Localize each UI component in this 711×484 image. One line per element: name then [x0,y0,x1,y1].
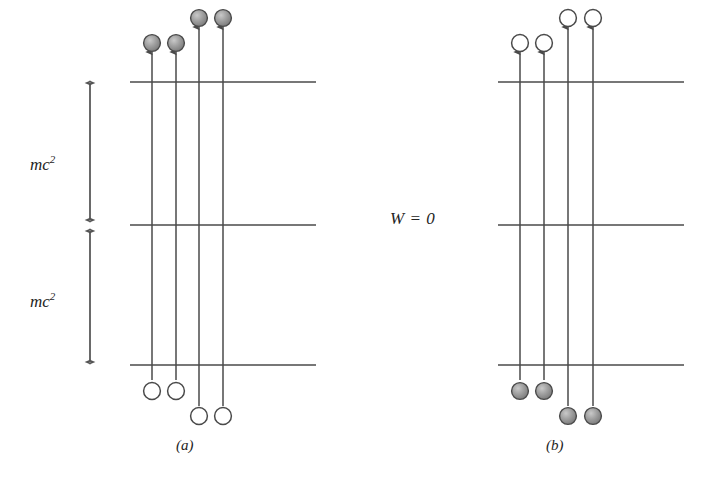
figure-root: mc2 mc2 W = 0 (a) (b) [0,0,711,484]
panel-b-transition-2-start-circle-filled [536,383,553,400]
panel-a-transition-2-end-circle-filled [168,35,185,52]
panel-a-transition-4-start-circle-open [215,408,232,425]
panel-b-transition-3-end-circle-open [560,10,577,27]
panel-a-transition-1-start-circle-open [144,383,161,400]
panel-b-transition-4-start-circle-filled [585,408,602,425]
panel-a-caption: (a) [176,437,194,454]
panel-a-transition-3-start-circle-open [191,408,208,425]
panel-a-transition-4-end-circle-filled [215,10,232,27]
lower-mc2-exponent: 2 [50,290,56,302]
panel-b-caption: (b) [546,437,564,454]
energy-level-diagram [0,0,711,484]
lower-mc2-label: mc2 [30,290,55,312]
panel-b-transition-1-start-circle-filled [512,383,529,400]
lower-mc2-text: mc [30,292,50,311]
upper-mc2-label: mc2 [30,153,55,175]
panel-a-transition-1-end-circle-filled [144,35,161,52]
panel-b [498,10,684,425]
upper-mc2-exponent: 2 [50,153,56,165]
panel-a-transition-2-start-circle-open [168,383,185,400]
panel-a [130,10,316,425]
panel-b-transition-3-start-circle-filled [560,408,577,425]
panel-b-transition-2-end-circle-open [536,35,553,52]
zero-energy-label: W = 0 [390,209,435,229]
upper-mc2-text: mc [30,155,50,174]
panel-b-transition-1-end-circle-open [512,35,529,52]
panel-a-transition-3-end-circle-filled [191,10,208,27]
panel-b-transition-4-end-circle-open [585,10,602,27]
